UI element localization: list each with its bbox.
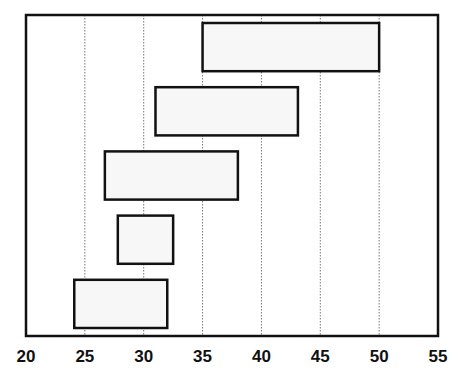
x-tick-label-40: 40 (252, 347, 271, 366)
x-tick-label-20: 20 (17, 347, 36, 366)
range-bar-5 (74, 280, 167, 328)
floating-bar-chart: 2025303540455055 (0, 0, 462, 386)
x-tick-label-35: 35 (193, 347, 212, 366)
range-bar-2 (155, 87, 297, 135)
x-tick-label-50: 50 (370, 347, 389, 366)
range-bar-4 (118, 216, 173, 264)
x-axis-tick-labels: 2025303540455055 (17, 347, 448, 366)
x-tick-label-45: 45 (311, 347, 330, 366)
range-bar-3 (105, 151, 238, 199)
x-tick-label-30: 30 (134, 347, 153, 366)
range-bar-1 (203, 23, 380, 71)
x-tick-label-55: 55 (429, 347, 448, 366)
bars (74, 23, 379, 328)
x-tick-label-25: 25 (75, 347, 94, 366)
